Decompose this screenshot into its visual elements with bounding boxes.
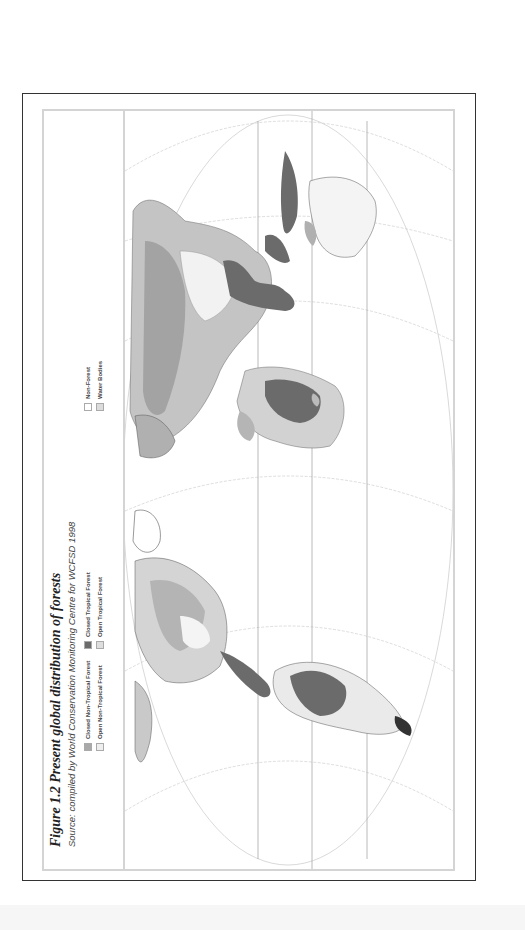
swatch-non-forest-icon (84, 403, 92, 411)
legend-item-non-forest: Non-Forest (84, 367, 92, 411)
legend-item-closed-non-tropical: Closed Non-Tropical Forest (84, 661, 92, 751)
swatch-open-tropical-icon (96, 641, 104, 649)
swatch-open-non-tropical-icon (96, 743, 104, 751)
swatch-water-bodies-icon (96, 403, 104, 411)
swatch-closed-non-tropical-icon (84, 743, 92, 751)
figure-caption: Figure 1.2 Present global distribution o… (44, 109, 122, 871)
swatch-closed-tropical-icon (84, 641, 92, 649)
figure-source: Source: compiled by World Conservation M… (66, 522, 77, 847)
figure-title: Figure 1.2 Present global distribution o… (48, 573, 64, 847)
legend-item-open-tropical: Open Tropical Forest (96, 577, 104, 649)
legend-item-open-non-tropical: Open Non-Tropical Forest (96, 665, 104, 751)
legend-item-water-bodies: Water Bodies (96, 361, 104, 411)
legend-item-closed-tropical: Closed Tropical Forest (84, 572, 92, 649)
world-forest-map (125, 111, 453, 869)
page-bottom-margin (0, 905, 525, 930)
